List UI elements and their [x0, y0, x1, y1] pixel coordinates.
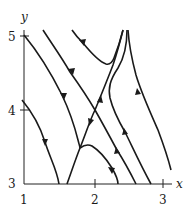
separatrix	[67, 30, 123, 184]
arrow-icon	[42, 139, 48, 146]
trajectory-a	[22, 100, 59, 184]
x-tick-label-3: 3	[159, 193, 167, 207]
phase-portrait: y x 5 4 3 1 2 3	[0, 0, 193, 215]
arrow-icon	[114, 147, 120, 154]
y-tick-label-3: 3	[8, 177, 16, 191]
x-tick-label-2: 2	[91, 193, 99, 207]
bottom-hyperbola	[80, 145, 118, 184]
arrow-icon	[60, 93, 67, 100]
trajectory-b	[24, 35, 80, 148]
y-tick-label-5: 5	[8, 30, 16, 44]
trajectory-g	[128, 30, 171, 170]
y-axis-label: y	[20, 10, 28, 24]
y-tick-label-4: 4	[8, 104, 16, 118]
trajectory-c	[43, 30, 136, 184]
x-tick-label-1: 1	[20, 193, 28, 207]
arrow-icon	[88, 118, 94, 126]
x-axis-label: x	[176, 177, 183, 191]
